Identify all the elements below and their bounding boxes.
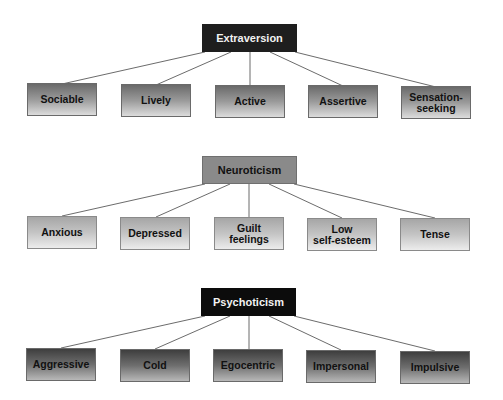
node-label: Impersonal: [313, 361, 369, 372]
node-label: Psychoticism: [213, 297, 284, 308]
node-label: Lively: [141, 95, 171, 106]
node-lively: Lively: [121, 84, 191, 117]
node-aggressive: Aggressive: [26, 348, 96, 381]
node-sensation-seeking: Sensation- seeking: [401, 86, 471, 119]
node-psychoticism: Psychoticism: [201, 288, 296, 316]
node-label: Tense: [420, 229, 450, 240]
connector-line: [294, 184, 435, 218]
node-label: Extraversion: [216, 33, 283, 44]
node-low-self-esteem: Low self-esteem: [307, 218, 377, 251]
connector-line: [62, 52, 205, 84]
node-egocentric: Egocentric: [213, 349, 283, 382]
node-active: Active: [215, 85, 285, 118]
node-label: Active: [234, 96, 266, 107]
node-impersonal: Impersonal: [306, 350, 376, 383]
connector-lines: [0, 0, 503, 400]
node-label: Cold: [143, 360, 166, 371]
connector-line: [295, 52, 436, 87]
connector-line: [62, 184, 205, 216]
node-depressed: Depressed: [120, 217, 190, 250]
node-sociable: Sociable: [27, 83, 97, 116]
node-label: Depressed: [128, 228, 182, 239]
connector-line: [156, 52, 231, 85]
node-label: Impulsive: [411, 362, 459, 373]
node-label: Egocentric: [221, 360, 275, 371]
node-neuroticism: Neuroticism: [202, 156, 297, 184]
node-guilt-feelings: Guilt feelings: [214, 217, 284, 250]
node-impulsive: Impulsive: [400, 351, 470, 384]
node-extraversion: Extraversion: [202, 24, 297, 52]
node-cold: Cold: [120, 349, 190, 382]
node-label: Anxious: [41, 227, 82, 238]
node-label: Low self-esteem: [313, 224, 371, 246]
connector-line: [269, 316, 341, 350]
node-label: Sensation- seeking: [409, 92, 463, 114]
connector-line: [269, 184, 342, 218]
node-label: Assertive: [319, 96, 366, 107]
connector-line: [61, 316, 205, 348]
node-label: Neuroticism: [218, 165, 282, 176]
node-tense: Tense: [400, 218, 470, 251]
node-assertive: Assertive: [308, 85, 378, 118]
connector-line: [156, 184, 230, 217]
connector-line: [270, 52, 343, 86]
node-label: Sociable: [40, 94, 83, 105]
node-label: Aggressive: [33, 359, 90, 370]
node-anxious: Anxious: [27, 216, 97, 249]
connector-line: [155, 316, 230, 349]
node-label: Guilt feelings: [229, 223, 269, 245]
connector-line: [294, 316, 435, 351]
